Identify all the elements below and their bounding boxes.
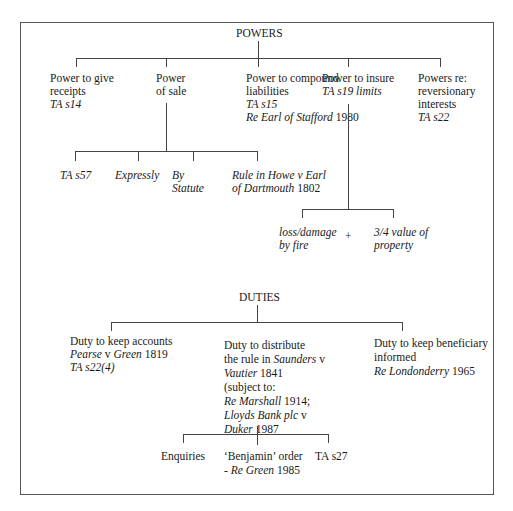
connector [183, 434, 184, 443]
connector [440, 58, 441, 67]
connector [75, 151, 258, 152]
connector [257, 305, 258, 322]
connector [258, 58, 259, 67]
connector [111, 322, 112, 331]
duties-title: DUTIES [239, 291, 280, 304]
connector [348, 104, 349, 209]
node-expressly: Expressly [115, 169, 159, 182]
connector [111, 322, 403, 323]
connector [166, 58, 167, 67]
connector [257, 151, 258, 161]
connector [402, 322, 403, 331]
node-ta-s27: TA s27 [315, 450, 348, 463]
connector [302, 209, 303, 218]
node-enquiries: Enquiries [161, 450, 205, 463]
connector [193, 151, 194, 161]
connector [393, 209, 394, 218]
connector [328, 434, 329, 443]
connector [258, 41, 259, 58]
connector [75, 151, 76, 161]
node-ta-s57: TA s57 [60, 169, 91, 182]
powers-title: POWERS [236, 27, 283, 40]
connector [302, 209, 394, 210]
connector [257, 426, 258, 445]
connector [183, 434, 329, 435]
connector [166, 103, 167, 152]
connector [76, 58, 77, 67]
plus-sign: + [345, 230, 352, 243]
connector [138, 151, 139, 161]
connector [348, 58, 349, 67]
